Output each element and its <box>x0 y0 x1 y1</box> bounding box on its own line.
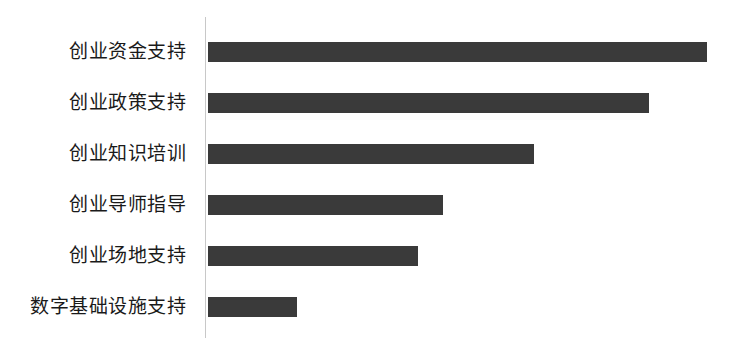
bar-row: 创业场地支持 <box>0 246 738 266</box>
bar-rect <box>208 93 649 113</box>
bar-row: 数字基础设施支持 <box>0 297 738 317</box>
bar-track <box>208 246 418 266</box>
bar-track <box>208 93 649 113</box>
bar-rect <box>208 42 707 62</box>
bar-rect <box>208 297 297 317</box>
bar-track <box>208 195 443 215</box>
bar-rect <box>208 246 418 266</box>
bar-track <box>208 297 297 317</box>
bar-category-label: 创业知识培训 <box>0 144 186 164</box>
bar-row: 创业政策支持 <box>0 93 738 113</box>
bar-row: 创业资金支持 <box>0 42 738 62</box>
bar-category-label: 数字基础设施支持 <box>0 297 186 317</box>
bar-track <box>208 42 707 62</box>
bar-row: 创业知识培训 <box>0 144 738 164</box>
bar-rect <box>208 144 534 164</box>
bar-rect <box>208 195 443 215</box>
bar-category-label: 创业政策支持 <box>0 93 186 113</box>
bar-category-label: 创业导师指导 <box>0 195 186 215</box>
bar-rows-container: 创业资金支持创业政策支持创业知识培训创业导师指导创业场地支持数字基础设施支持 <box>0 0 738 358</box>
bar-category-label: 创业资金支持 <box>0 42 186 62</box>
bar-row: 创业导师指导 <box>0 195 738 215</box>
bar-track <box>208 144 534 164</box>
horizontal-bar-chart: 创业资金支持创业政策支持创业知识培训创业导师指导创业场地支持数字基础设施支持 <box>0 0 738 358</box>
bar-category-label: 创业场地支持 <box>0 246 186 266</box>
